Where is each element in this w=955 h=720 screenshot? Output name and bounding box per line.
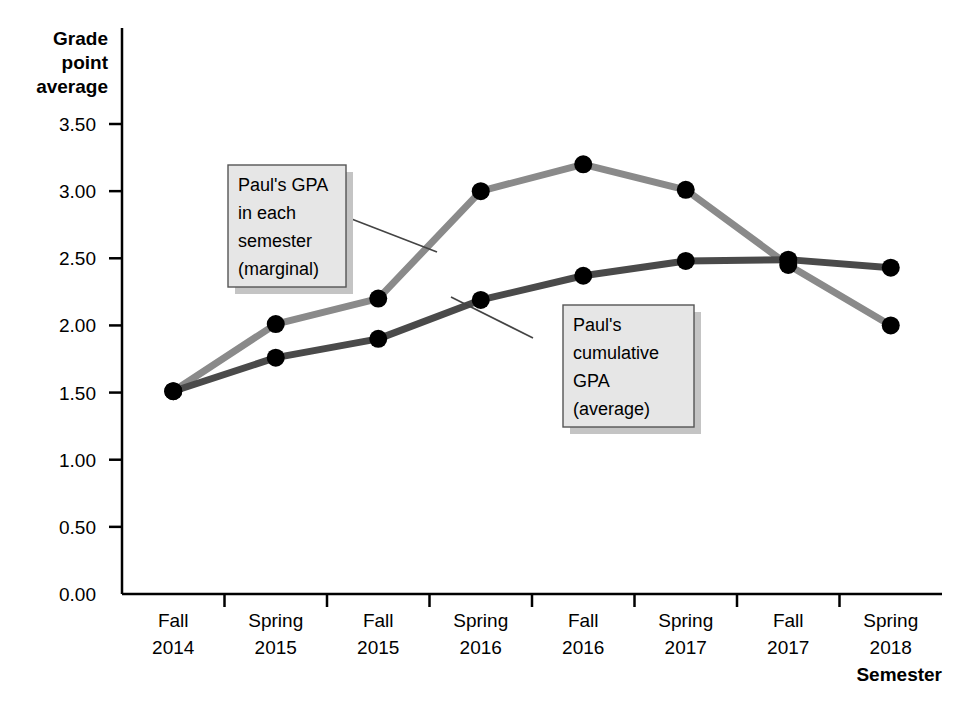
y-tick-label: 2.00 <box>59 315 96 336</box>
cumulative-callout-line-3: GPA <box>573 371 610 391</box>
y-tick-label: 0.00 <box>59 584 96 605</box>
x-tick-label: Fall <box>363 610 394 631</box>
y-tick-label: 3.50 <box>59 114 96 135</box>
marginal-callout-line-4: (marginal) <box>238 259 319 279</box>
x-axis-ticks: Fall2014Spring2015Fall2015Spring2016Fall… <box>152 594 918 658</box>
x-tick-label: Spring <box>248 610 303 631</box>
x-tick-label: 2015 <box>357 637 399 658</box>
y-tick-label: 1.50 <box>59 383 96 404</box>
y-tick-label: 1.00 <box>59 450 96 471</box>
data-point-marker <box>267 315 285 333</box>
y-tick-label: 3.00 <box>59 181 96 202</box>
x-tick-label: 2017 <box>767 637 809 658</box>
chart-page: Grade point average 3.503.002.502.001.50… <box>0 0 955 720</box>
cumulative-callout-leader <box>451 297 533 338</box>
y-tick-label: 0.50 <box>59 517 96 538</box>
cumulative-callout: Paul's cumulative GPA (average) <box>563 305 701 434</box>
x-tick-label: 2016 <box>562 637 604 658</box>
data-point-marker <box>164 382 182 400</box>
data-point-marker <box>677 181 695 199</box>
x-tick-label: 2014 <box>152 637 195 658</box>
x-tick-label: Fall <box>773 610 804 631</box>
y-axis-title-line-2: point <box>62 52 109 73</box>
data-point-marker <box>472 182 490 200</box>
y-axis-ticks: 3.503.002.502.001.501.000.500.00 <box>59 114 122 605</box>
data-point-marker <box>882 316 900 334</box>
data-point-marker <box>267 349 285 367</box>
x-tick-label: 2017 <box>665 637 707 658</box>
marginal-callout-line-1: Paul's GPA <box>238 175 328 195</box>
x-tick-label: 2015 <box>255 637 297 658</box>
x-tick-label: Spring <box>453 610 508 631</box>
marginal-callout: Paul's GPA in each semester (marginal) <box>228 165 353 294</box>
x-tick-label: Fall <box>158 610 189 631</box>
data-point-marker <box>779 251 797 269</box>
cumulative-callout-line-4: (average) <box>573 399 650 419</box>
marginal-callout-line-3: semester <box>238 231 312 251</box>
data-point-marker <box>574 267 592 285</box>
data-point-marker <box>369 330 387 348</box>
x-axis-title: Semester <box>856 664 942 685</box>
y-axis-title: Grade point average <box>36 28 109 97</box>
data-point-marker <box>472 291 490 309</box>
gpa-line-chart: Grade point average 3.503.002.502.001.50… <box>0 0 955 720</box>
data-point-marker <box>882 259 900 277</box>
y-axis-title-line-3: average <box>36 76 108 97</box>
marginal-callout-leader <box>349 218 437 252</box>
x-tick-label: 2016 <box>460 637 502 658</box>
cumulative-callout-line-1: Paul's <box>573 315 621 335</box>
cumulative-callout-line-2: cumulative <box>573 343 659 363</box>
x-tick-label: Spring <box>658 610 713 631</box>
x-tick-label: Fall <box>568 610 599 631</box>
y-axis-title-line-1: Grade <box>53 28 108 49</box>
x-tick-label: 2018 <box>870 637 912 658</box>
x-tick-label: Spring <box>863 610 918 631</box>
data-point-marker <box>574 155 592 173</box>
data-point-marker <box>677 252 695 270</box>
marginal-callout-line-2: in each <box>238 203 296 223</box>
y-tick-label: 2.50 <box>59 248 96 269</box>
data-point-marker <box>369 290 387 308</box>
